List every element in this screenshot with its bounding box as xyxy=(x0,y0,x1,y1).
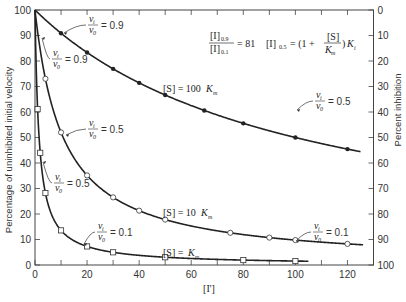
annotation-0.5-mid: viv0= 0.5 xyxy=(66,117,124,140)
y-tick-label: 90 xyxy=(20,30,32,41)
y-right-tick-label: 40 xyxy=(378,107,390,118)
svg-text:= 0.1: = 0.1 xyxy=(110,227,133,238)
svg-text:= 0.5: = 0.5 xyxy=(101,124,124,135)
y-tick-label: 40 xyxy=(20,158,32,169)
svg-text:[I]: [I] xyxy=(210,43,220,54)
svg-text:[S] =: [S] = xyxy=(163,247,184,258)
data-point xyxy=(58,228,63,233)
y-right-tick-label: 100 xyxy=(378,260,395,271)
data-point xyxy=(43,76,48,81)
svg-text:[I]: [I] xyxy=(266,38,276,49)
svg-text:0: 0 xyxy=(57,64,60,70)
annotation-0.9-top: viv0= 0.9 xyxy=(64,13,124,36)
svg-text:0: 0 xyxy=(93,30,96,36)
annotation-0.1-left: viv0= 0.1 xyxy=(84,220,133,246)
data-point xyxy=(43,190,48,195)
svg-text:= 0.9: = 0.9 xyxy=(101,20,124,31)
x-tick-label: 0 xyxy=(32,269,38,280)
y-tick-label: 10 xyxy=(20,234,32,245)
svg-text:m: m xyxy=(208,214,213,220)
data-point xyxy=(241,257,246,262)
y-tick-label: 70 xyxy=(20,81,32,92)
data-point xyxy=(38,150,43,155)
annotation-0.5-left: viv0= 0.5 xyxy=(43,161,90,194)
data-point xyxy=(293,135,297,139)
svg-text:= 0.5: = 0.5 xyxy=(67,178,90,189)
svg-text:[S]: [S] xyxy=(327,31,339,42)
y-tick-label: 100 xyxy=(14,5,31,16)
svg-text:m: m xyxy=(195,254,200,260)
svg-text:): ) xyxy=(342,38,345,50)
svg-text:0: 0 xyxy=(59,188,62,194)
inhibition-chart: 0204060801001200102030405060708090100010… xyxy=(0,0,406,302)
y-right-tick-label: 70 xyxy=(378,183,390,194)
data-point xyxy=(293,258,298,263)
data-point xyxy=(58,130,63,135)
data-point xyxy=(228,230,233,235)
y-axis-title: Percentage of uninhibited initial veloci… xyxy=(3,67,14,234)
y-tick-label: 30 xyxy=(20,183,32,194)
data-point xyxy=(241,121,245,125)
svg-text:0.5: 0.5 xyxy=(279,44,287,50)
svg-text:[I]: [I] xyxy=(210,30,220,41)
svg-text:0: 0 xyxy=(318,237,321,243)
svg-text:[S] = 100: [S] = 100 xyxy=(163,83,201,94)
svg-text:0: 0 xyxy=(93,134,96,140)
data-point xyxy=(111,195,116,200)
data-point xyxy=(345,241,350,246)
data-point xyxy=(137,81,141,85)
y-tick-label: 60 xyxy=(20,107,32,118)
data-markers xyxy=(35,31,350,264)
svg-text:0.9: 0.9 xyxy=(221,36,229,42)
label-s-100km: [S] = 100 K m xyxy=(163,83,218,96)
svg-text:i: i xyxy=(354,45,356,51)
y-right-tick-label: 20 xyxy=(378,56,390,67)
svg-text:0.1: 0.1 xyxy=(221,49,229,55)
y-right-tick-label: 0 xyxy=(378,5,384,16)
y-right-tick-label: 80 xyxy=(378,209,390,220)
y-right-tick-label: 60 xyxy=(378,158,390,169)
svg-text:= 81: = 81 xyxy=(237,38,255,49)
y-axis-right-title: Percent inhibition xyxy=(392,74,403,147)
annotation-0.9-left: viv0= 0.9 xyxy=(42,37,88,70)
svg-text:= 0.9: = 0.9 xyxy=(65,54,88,65)
data-point xyxy=(202,108,206,112)
y-tick-label: 80 xyxy=(20,56,32,67)
data-point xyxy=(345,147,349,151)
ratio-equation: [I] 0.9 [I] 0.1 = 81 xyxy=(209,30,255,55)
y-right-tick-label: 30 xyxy=(378,81,390,92)
data-point xyxy=(267,235,272,240)
label-s-10km: [S] = 10 K m xyxy=(163,207,213,220)
half-inhibition-equation: [I] 0.5 = (1 + [S] K m ) K i xyxy=(266,31,356,56)
data-point xyxy=(111,250,116,255)
svg-text:= 0.1: = 0.1 xyxy=(326,227,349,238)
y-tick-label: 50 xyxy=(20,132,32,143)
annotation-0.5-right: viv0= 0.5 xyxy=(297,89,351,112)
svg-text:0: 0 xyxy=(102,237,105,243)
x-tick-label: 60 xyxy=(186,269,198,280)
svg-text:[S] = 10: [S] = 10 xyxy=(163,207,196,218)
data-point xyxy=(59,31,63,35)
y-right-tick-label: 90 xyxy=(378,234,390,245)
x-tick-label: 40 xyxy=(134,269,146,280)
svg-text:= 0.5: = 0.5 xyxy=(328,96,351,107)
svg-text:m: m xyxy=(331,50,336,56)
y-right-tick-label: 10 xyxy=(378,30,390,41)
y-tick-label: 20 xyxy=(20,209,32,220)
svg-text:0: 0 xyxy=(320,106,323,112)
x-tick-label: 120 xyxy=(339,269,356,280)
x-axis-title: [I'] xyxy=(203,283,215,294)
plot-frame xyxy=(35,10,374,265)
annotation-0.1-right: viv0= 0.1 xyxy=(296,220,349,243)
y-right-tick-label: 50 xyxy=(378,132,390,143)
x-tick-label: 20 xyxy=(82,269,94,280)
x-tick-label: 100 xyxy=(287,269,304,280)
svg-text:= (1 +: = (1 + xyxy=(290,38,315,50)
data-point xyxy=(137,208,142,213)
data-point xyxy=(35,107,40,112)
curve-0 xyxy=(35,10,360,152)
svg-text:m: m xyxy=(213,90,218,96)
y-tick-label: 0 xyxy=(25,260,31,271)
x-tick-label: 80 xyxy=(238,269,250,280)
data-point xyxy=(111,67,115,71)
